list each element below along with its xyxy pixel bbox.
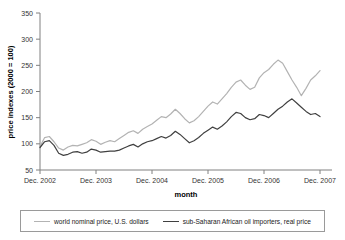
x-tick-label: Dec. 2005 bbox=[192, 177, 224, 184]
y-axis-ticks: 50100150200250300350 bbox=[21, 10, 40, 174]
y-tick-label: 300 bbox=[21, 36, 33, 43]
x-tick-label: Dec. 2006 bbox=[248, 177, 280, 184]
legend-item-subsaharan-real-price: sub-Saharan African oil importers, real … bbox=[163, 218, 311, 225]
x-axis-ticks: Dec. 2002Dec. 2003Dec. 2004Dec. 2005Dec.… bbox=[24, 170, 336, 184]
y-axis-title: price indexes (2000 = 100) bbox=[6, 45, 15, 138]
y-tick-label: 200 bbox=[21, 88, 33, 95]
y-tick-label: 350 bbox=[21, 10, 33, 17]
x-axis-title: month bbox=[175, 190, 198, 199]
series-line-world-nominal-price bbox=[40, 60, 320, 150]
x-tick-label: Dec. 2002 bbox=[24, 177, 56, 184]
x-tick-label: Dec. 2003 bbox=[80, 177, 112, 184]
series-line-subsaharan-real-price bbox=[40, 99, 320, 156]
chart-figure: price indexes (2000 = 100) 5010015020025… bbox=[0, 0, 345, 240]
legend-swatch-world-nominal-price bbox=[34, 221, 50, 222]
series-group bbox=[40, 60, 320, 155]
y-tick-label: 50 bbox=[25, 167, 33, 174]
y-tick-label: 100 bbox=[21, 140, 33, 147]
x-tick-label: Dec. 2007 bbox=[304, 177, 336, 184]
price-index-line-chart: price indexes (2000 = 100) 5010015020025… bbox=[0, 0, 345, 205]
chart-legend: world nominal price, U.S. dollars sub-Sa… bbox=[20, 210, 325, 232]
legend-label-world-nominal-price: world nominal price, U.S. dollars bbox=[54, 218, 149, 225]
legend-item-world-nominal-price: world nominal price, U.S. dollars bbox=[34, 218, 149, 225]
y-tick-label: 150 bbox=[21, 114, 33, 121]
y-tick-label: 250 bbox=[21, 62, 33, 69]
legend-swatch-subsaharan-real-price bbox=[163, 221, 179, 222]
x-tick-label: Dec. 2004 bbox=[136, 177, 168, 184]
legend-label-subsaharan-real-price: sub-Saharan African oil importers, real … bbox=[183, 218, 311, 225]
